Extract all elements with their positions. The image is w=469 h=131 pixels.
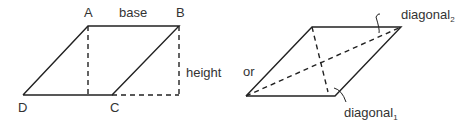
diagonal-1-label: diagonal1 <box>344 105 398 122</box>
parallelogram-outline <box>23 26 179 95</box>
or-label: or <box>243 64 255 79</box>
diagonal-2-label: diagonal2 <box>401 7 455 24</box>
diagonal-2-leader <box>376 14 380 33</box>
diagonal-2-line <box>246 27 401 96</box>
base-label: base <box>119 5 147 20</box>
left-parallelogram <box>23 26 179 95</box>
vertex-label-b: B <box>176 5 185 20</box>
diagonal-1-line <box>312 27 328 92</box>
vertex-label-c: C <box>110 100 119 115</box>
vertex-label-a: A <box>84 5 93 20</box>
height-label: height <box>186 65 222 80</box>
vertex-label-d: D <box>18 100 27 115</box>
right-parallelogram <box>246 14 401 102</box>
parallelogram-diagram: A B C D base height or diagonal2 diagona… <box>0 0 469 131</box>
